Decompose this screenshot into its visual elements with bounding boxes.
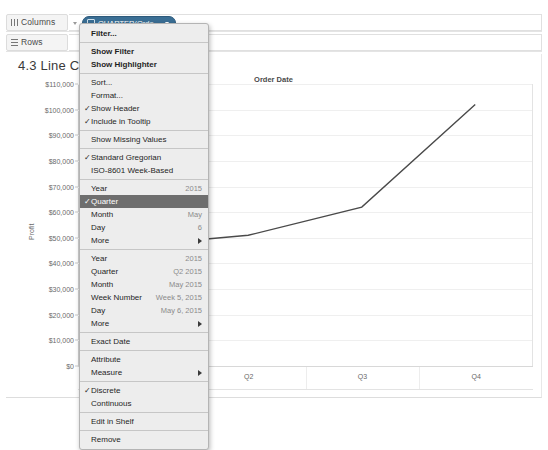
menu-separator [80,130,208,131]
menu-separator [80,430,208,431]
chevron-down-icon[interactable] [73,22,77,25]
menu-item-label: Show Highlighter [91,60,202,69]
check-icon: ✓ [84,387,91,395]
menu-item-value: 2015 [179,254,202,263]
menu-item-discrete[interactable]: ✓Discrete [80,384,208,397]
menu-item-label: Attribute [91,355,202,364]
y-axis-tick-label: $60,000 [49,209,74,216]
menu-separator [80,42,208,43]
menu-item-quarter[interactable]: ✓Quarter [80,195,208,208]
check-icon: ✓ [84,154,91,162]
menu-item-year[interactable]: Year2015 [80,182,208,195]
menu-item-value: 2015 [179,184,202,193]
menu-item-measure[interactable]: Measure [80,366,208,379]
menu-item-show-highlighter[interactable]: Show Highlighter [80,58,208,71]
menu-item-show-header[interactable]: ✓Show Header [80,102,208,115]
menu-separator [80,179,208,180]
menu-separator [80,148,208,149]
y-axis-tick-label: $40,000 [49,260,74,267]
menu-item-day[interactable]: Day6 [80,221,208,234]
rows-shelf-label: Rows [6,34,68,51]
rows-icon [11,39,18,46]
y-axis-tick-label: $110,000 [45,81,74,88]
menu-item-label: More [91,236,198,245]
menu-item-label: Show Filter [91,47,202,56]
menu-separator [80,350,208,351]
menu-item-label: Discrete [91,386,202,395]
menu-item-label: Month [91,210,182,219]
y-axis-tick-label: $50,000 [49,234,74,241]
menu-item-label: ISO-8601 Week-Based [91,166,202,175]
menu-item-label: Day [91,223,192,232]
menu-item-filter[interactable]: Filter... [80,27,208,40]
menu-item-value: May 2015 [163,280,202,289]
menu-separator [80,381,208,382]
menu-item-show-filter[interactable]: Show Filter [80,45,208,58]
date-field-context-menu[interactable]: Filter...Show FilterShow HighlighterSort… [79,23,209,450]
menu-item-label: Year [91,254,179,263]
menu-item-year[interactable]: Year2015 [80,252,208,265]
rows-label-text: Rows [21,37,43,47]
x-axis-separator [419,367,420,389]
menu-item-label: Show Header [91,104,202,113]
y-axis-tick-label: $100,000 [45,106,74,113]
menu-separator [80,332,208,333]
menu-item-day[interactable]: DayMay 6, 2015 [80,304,208,317]
menu-separator [80,73,208,74]
chevron-right-icon [198,238,202,244]
y-axis-label: Profit [28,224,35,240]
menu-item-label: Quarter [91,267,167,276]
menu-item-remove[interactable]: Remove [80,433,208,446]
menu-item-format[interactable]: Format... [80,89,208,102]
menu-item-more[interactable]: More [80,317,208,330]
columns-label-text: Columns [21,17,55,27]
menu-item-more[interactable]: More [80,234,208,247]
menu-item-value: Q2 2015 [167,267,202,276]
menu-item-week-number[interactable]: Week NumberWeek 5, 2015 [80,291,208,304]
menu-item-label: More [91,319,198,328]
x-axis-tick-label[interactable]: Q2 [244,373,253,380]
menu-item-label: Day [91,306,155,315]
menu-item-include-in-tooltip[interactable]: ✓Include in Tooltip [80,115,208,128]
y-axis-tick-label: $90,000 [49,132,74,139]
menu-item-continuous[interactable]: Continuous [80,397,208,410]
menu-item-attribute[interactable]: Attribute [80,353,208,366]
menu-item-exact-date[interactable]: Exact Date [80,335,208,348]
menu-item-label: Format... [91,91,202,100]
columns-shelf-label: Columns [6,14,68,31]
menu-item-label: Include in Tooltip [91,117,202,126]
y-axis-tick-label: $20,000 [49,311,74,318]
x-axis-tick-label[interactable]: Q4 [471,373,480,380]
y-axis-tick-label: $30,000 [49,286,74,293]
y-axis-tick-label: $80,000 [49,157,74,164]
menu-item-edit-in-shelf[interactable]: Edit in Shelf [80,415,208,428]
menu-item-label: Edit in Shelf [91,417,202,426]
menu-item-label: Quarter [91,197,202,206]
menu-separator [80,249,208,250]
check-icon: ✓ [84,198,91,206]
menu-item-value: 6 [192,223,202,232]
menu-item-month[interactable]: MonthMay 2015 [80,278,208,291]
chevron-right-icon [198,370,202,376]
menu-item-label: Month [91,280,163,289]
menu-item-standard-gregorian[interactable]: ✓Standard Gregorian [80,151,208,164]
columns-icon [11,19,18,26]
menu-item-label: Continuous [91,399,202,408]
menu-separator [80,412,208,413]
menu-item-iso-8601-week-based[interactable]: ISO-8601 Week-Based [80,164,208,177]
menu-item-month[interactable]: MonthMay [80,208,208,221]
check-icon: ✓ [84,118,91,126]
menu-item-label: Show Missing Values [91,135,202,144]
chevron-right-icon [198,321,202,327]
menu-item-value: May 6, 2015 [155,306,202,315]
menu-item-quarter[interactable]: QuarterQ2 2015 [80,265,208,278]
menu-item-label: Week Number [91,293,150,302]
menu-item-label: Remove [91,435,202,444]
x-axis-tick-label[interactable]: Q3 [358,373,367,380]
menu-item-label: Standard Gregorian [91,153,202,162]
menu-item-sort[interactable]: Sort... [80,76,208,89]
x-axis-separator [306,367,307,389]
menu-item-show-missing-values[interactable]: Show Missing Values [80,133,208,146]
menu-item-label: Exact Date [91,337,202,346]
menu-item-label: Year [91,184,179,193]
